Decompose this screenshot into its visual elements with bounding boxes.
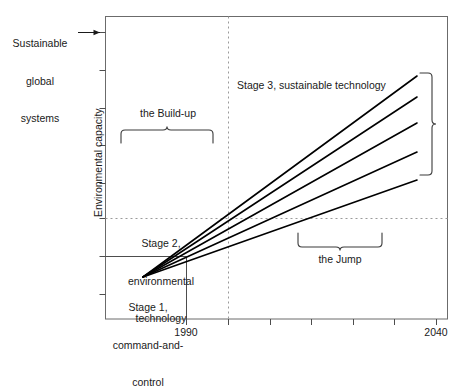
stage1-line-3: control (108, 376, 188, 389)
sustainable-systems-arrow (78, 30, 100, 36)
y-axis-label: Environmental capacity (92, 108, 104, 217)
stage1-line-1: Stage 1, (108, 301, 188, 314)
x-tick-label-end: 2040 (413, 326, 459, 339)
build-up-label: the Build-up (122, 107, 214, 120)
sustainable-global-systems-label: Sustainable global systems (4, 12, 76, 137)
stage2-line-1: Stage 2, (110, 237, 212, 250)
x-axis-ticks (187, 319, 437, 325)
stage3-label: Stage 3, sustainable technology (237, 79, 386, 92)
stage3-range-brace (420, 73, 436, 175)
sustainable-line-2: global (4, 75, 76, 88)
jump-label: the Jump (305, 253, 375, 266)
build-up-brace (121, 127, 213, 144)
sustainable-line-3: systems (4, 112, 76, 125)
stage1-line-2: command-and- (108, 339, 188, 352)
jump-brace (298, 233, 382, 251)
x-tick-label-start: 1990 (163, 326, 209, 339)
sustainable-line-1: Sustainable (4, 37, 76, 50)
